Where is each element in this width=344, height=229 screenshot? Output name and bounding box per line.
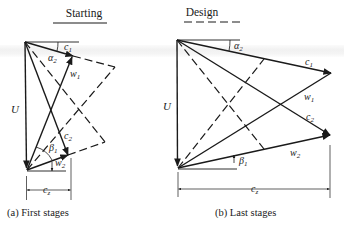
u-vector — [25, 42, 27, 168]
label-u: U — [11, 103, 20, 115]
label-w1: w1 — [304, 91, 314, 104]
label-w2: w2 — [290, 147, 301, 160]
label-c2: c2 — [64, 130, 72, 143]
alpha2-arc — [57, 42, 58, 51]
panel-first-stages — [25, 42, 115, 200]
label-cz: cz — [251, 183, 258, 196]
label-cz: cz — [43, 184, 50, 197]
c1-vector-design — [73, 56, 115, 67]
legend-starting-label: Starting — [66, 7, 103, 20]
legend-design: Design — [184, 6, 244, 22]
label-alpha2: α2 — [48, 52, 57, 65]
label-u: U — [163, 100, 172, 112]
label-c2: c2 — [306, 111, 314, 124]
label-w1: w1 — [70, 68, 80, 81]
caption-first-stages: (a) First stages — [7, 207, 69, 219]
u-vector — [177, 40, 178, 166]
alpha2-arc — [229, 40, 230, 51]
label-beta1: β1 — [238, 155, 247, 168]
velocity-triangle-figure: Starting Design U c1 — [0, 0, 344, 229]
w1-vector-starting — [27, 57, 72, 170]
legend-starting: Starting — [53, 7, 107, 23]
legend-design-label: Design — [186, 6, 219, 19]
label-c1: c1 — [64, 41, 72, 54]
label-alpha2: α2 — [234, 40, 243, 53]
caption-last-stages: (b) Last stages — [215, 207, 276, 219]
w2-vector-design — [68, 142, 105, 155]
label-w2: w2 — [55, 157, 66, 170]
label-beta1: β1 — [48, 142, 57, 155]
c2-vector-starting — [25, 42, 68, 155]
